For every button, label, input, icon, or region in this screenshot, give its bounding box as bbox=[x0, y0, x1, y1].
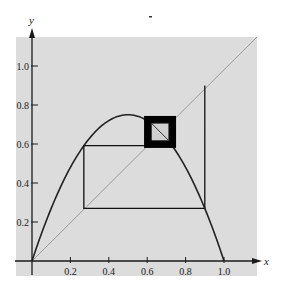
y-axis-arrow-icon bbox=[29, 28, 35, 38]
cobweb-diagram: 0.20.40.60.81.0 0.20.40.60.81.0 x y bbox=[0, 0, 284, 289]
x-axis-label: x bbox=[263, 255, 269, 267]
x-tick-label: 0.6 bbox=[141, 266, 154, 277]
x-tick-label: 0.4 bbox=[103, 266, 116, 277]
x-tick-label: 0.8 bbox=[179, 266, 192, 277]
y-tick-label: 1.0 bbox=[17, 61, 30, 72]
x-tick-label: 1.0 bbox=[218, 266, 231, 277]
y-tick-label: 0.4 bbox=[17, 178, 30, 189]
stray-mark bbox=[149, 16, 152, 18]
y-tick-label: 0.6 bbox=[17, 139, 30, 150]
y-tick-label: 0.2 bbox=[17, 217, 30, 228]
x-tick-label: 0.2 bbox=[64, 266, 77, 277]
plot-canvas: 0.20.40.60.81.0 0.20.40.60.81.0 x y bbox=[0, 0, 284, 289]
y-tick-label: 0.8 bbox=[17, 100, 30, 111]
y-axis-label: y bbox=[28, 14, 34, 26]
